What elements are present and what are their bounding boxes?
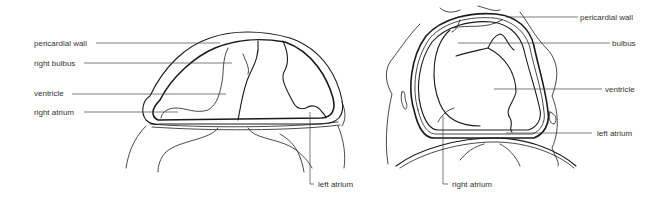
- label-pericardial-wall-right: pericardial wall: [580, 13, 633, 22]
- heart-section-diagram: pericardial wall right bulbus ventricle …: [0, 0, 668, 203]
- label-bulbus: bulbus: [612, 39, 636, 48]
- label-right-atrium-right: right atrium: [452, 180, 492, 189]
- label-left-atrium-right: left atrium: [597, 129, 632, 138]
- label-right-bulbus: right bulbus: [34, 59, 75, 68]
- label-ventricle-right: ventricle: [605, 85, 635, 94]
- label-left-atrium-left: left atrium: [318, 180, 353, 189]
- label-right-atrium-left: right atrium: [34, 108, 74, 117]
- right-heart-section: [386, 6, 576, 168]
- left-heart-section: [126, 32, 345, 172]
- label-pericardial-wall-left: pericardial wall: [34, 39, 87, 48]
- label-ventricle-left: ventricle: [34, 89, 64, 98]
